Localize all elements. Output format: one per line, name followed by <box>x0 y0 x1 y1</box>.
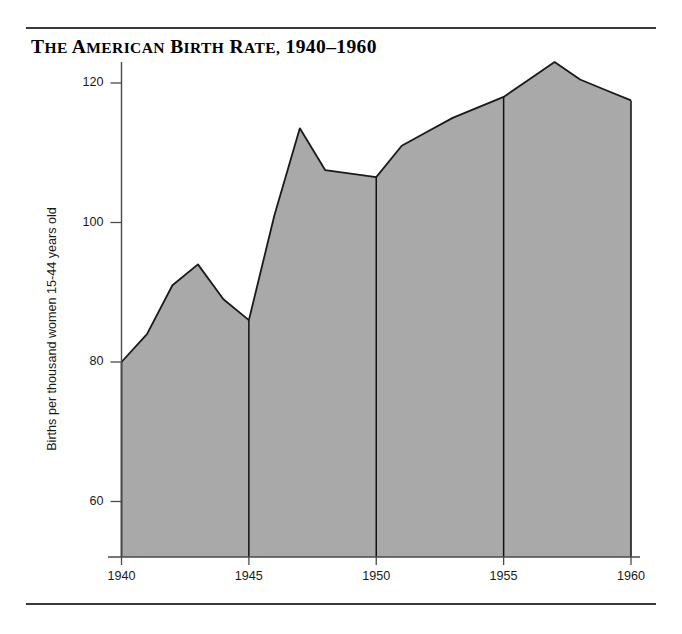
x-tick-label-1940: 1940 <box>97 569 147 583</box>
chart-plot <box>0 0 682 634</box>
x-tick-label-1955: 1955 <box>479 569 529 583</box>
x-tick-label-1950: 1950 <box>351 569 401 583</box>
figure-container: THE AMERICAN BIRTH RATE, 1940–1960 Birth… <box>0 0 682 634</box>
x-tick-label-1945: 1945 <box>224 569 274 583</box>
x-tick-label-1960: 1960 <box>606 569 656 583</box>
y-tick-label-60: 60 <box>64 494 104 508</box>
y-tick-label-80: 80 <box>64 354 104 368</box>
y-tick-label-100: 100 <box>64 215 104 229</box>
y-tick-label-120: 120 <box>64 75 104 89</box>
